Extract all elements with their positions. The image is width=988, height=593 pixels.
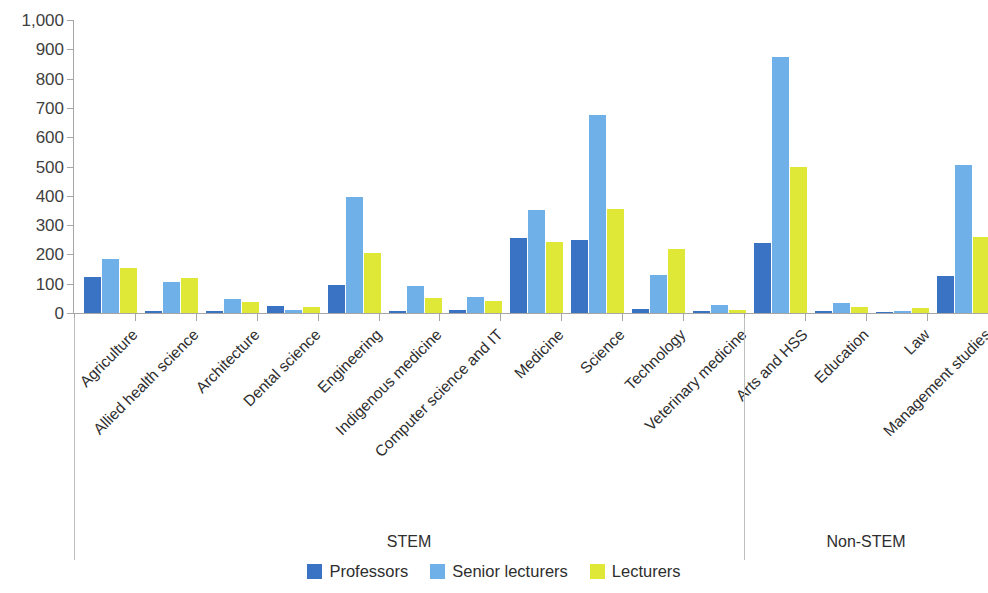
y-axis-tick-mark	[67, 254, 74, 255]
bar	[955, 165, 972, 313]
y-axis-tick-mark	[67, 196, 74, 197]
y-axis-tick-mark	[67, 79, 74, 80]
bar	[485, 301, 502, 313]
y-axis-tick-mark	[67, 284, 74, 285]
bar	[242, 302, 259, 313]
y-axis-tick-mark	[67, 137, 74, 138]
legend-swatch-icon	[307, 564, 322, 579]
y-axis-labels: 1,0009008007006005004003002001000	[0, 0, 64, 593]
y-axis-tick-label: 400	[2, 187, 64, 204]
y-axis-tick-mark	[67, 108, 74, 109]
bar	[102, 259, 119, 313]
group-band-label: Non-STEM	[826, 533, 905, 551]
legend-swatch-icon	[590, 564, 605, 579]
y-axis-tick-mark	[67, 49, 74, 50]
x-axis-category-label-text: Medicine	[512, 326, 567, 381]
bar	[84, 277, 101, 313]
legend-item[interactable]: Lecturers	[590, 563, 681, 580]
bar	[120, 268, 137, 313]
grouped-bar-chart: 1,0009008007006005004003002001000 Agricu…	[0, 0, 988, 593]
y-axis-tick-label: 1,000	[2, 12, 64, 29]
legend-label: Senior lecturers	[452, 563, 568, 580]
group-band-label: STEM	[387, 533, 431, 551]
y-axis-tick-mark	[67, 225, 74, 226]
legend-label: Lecturers	[612, 563, 681, 580]
y-axis-tick-label: 100	[2, 275, 64, 292]
y-axis-tick-label: 0	[2, 305, 64, 322]
bar-group	[145, 20, 198, 313]
group-separator	[74, 318, 75, 560]
bar-group	[937, 20, 988, 313]
bar-group	[693, 20, 746, 313]
bar	[425, 298, 442, 313]
bar-group	[571, 20, 624, 313]
legend-item[interactable]: Senior lecturers	[430, 563, 568, 580]
x-axis-category-label-text: Science	[577, 326, 627, 376]
y-axis-tick-label: 200	[2, 246, 64, 263]
x-axis-category-label-text: Agriculture	[77, 326, 140, 389]
bar-group	[84, 20, 137, 313]
legend-swatch-icon	[430, 564, 445, 579]
y-axis-tick-label: 800	[2, 70, 64, 87]
y-axis-tick-mark	[67, 167, 74, 168]
legend-item[interactable]: Professors	[307, 563, 408, 580]
y-axis-tick-mark	[67, 20, 74, 21]
bar-group	[876, 20, 929, 313]
x-axis-category-label-text: Law	[901, 326, 932, 357]
y-axis-tick-label: 500	[2, 158, 64, 175]
legend-label: Professors	[329, 563, 408, 580]
x-axis-category-label-text: Education	[812, 326, 872, 386]
x-axis-category-label-text: Allied health science	[90, 326, 201, 437]
plot-area	[74, 20, 988, 313]
x-axis-category-label-text: Computer science and IT	[372, 326, 505, 459]
bar	[668, 249, 685, 313]
y-axis-tick-label: 300	[2, 217, 64, 234]
bar-group	[632, 20, 685, 313]
x-axis-category-label-text: Indigenous medicine	[333, 326, 445, 438]
y-axis-tick-label: 600	[2, 129, 64, 146]
bar	[973, 237, 988, 313]
chart-legend: ProfessorsSenior lecturersLecturers	[0, 563, 988, 580]
x-axis-category-label-text: Technology	[622, 326, 688, 392]
group-separator	[744, 318, 745, 560]
y-axis-tick-label: 700	[2, 99, 64, 116]
x-axis-category-label-text: Management studies	[881, 326, 988, 439]
y-axis-tick-label: 900	[2, 41, 64, 58]
